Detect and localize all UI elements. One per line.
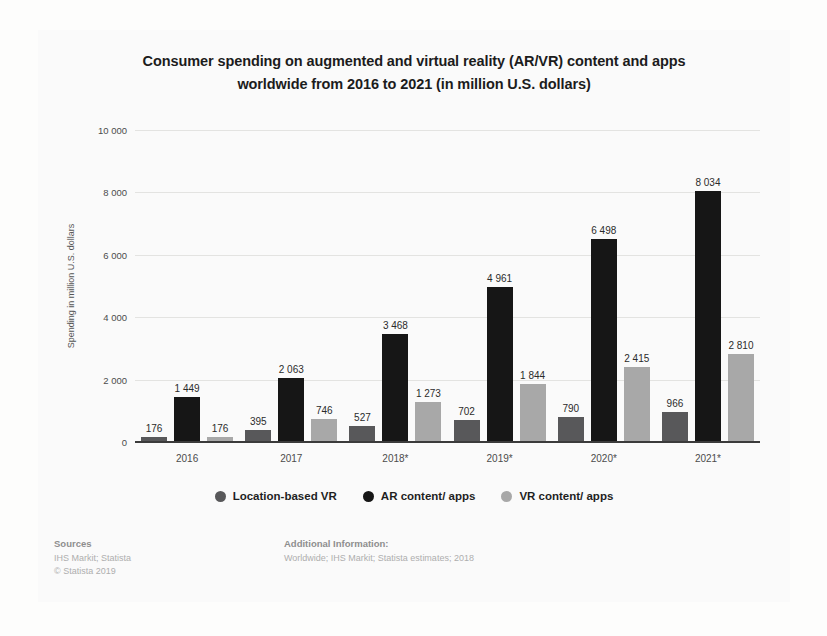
additional-information-heading: Additional Information: bbox=[284, 538, 724, 549]
bar-value-label: 4 961 bbox=[487, 273, 512, 284]
bar-group: 9668 0342 8102021* bbox=[656, 130, 760, 442]
legend-swatch-icon bbox=[215, 491, 226, 502]
y-axis-tick-label: 4 000 bbox=[103, 312, 127, 323]
bar[interactable] bbox=[174, 397, 200, 442]
bar-group: 7906 4982 4152020* bbox=[552, 130, 656, 442]
bar[interactable] bbox=[728, 354, 754, 442]
sources-block: Sources IHS Markit; Statista © Statista … bbox=[54, 538, 284, 577]
x-axis-tick-label: 2021* bbox=[656, 453, 760, 464]
x-axis-tick-label: 2019* bbox=[448, 453, 552, 464]
bar-column[interactable]: 1 273 bbox=[415, 130, 441, 442]
bar-column[interactable]: 2 810 bbox=[728, 130, 754, 442]
bar-column[interactable]: 746 bbox=[311, 130, 337, 442]
bar[interactable] bbox=[349, 426, 375, 442]
chart-figure: Consumer spending on augmented and virtu… bbox=[38, 30, 790, 602]
chart-title-line-2: worldwide from 2016 to 2021 (in million … bbox=[78, 73, 750, 96]
x-axis-tick-label: 2016 bbox=[135, 453, 239, 464]
x-axis-tick-label: 2017 bbox=[239, 453, 343, 464]
bar-value-label: 2 810 bbox=[728, 340, 753, 351]
bar-column[interactable]: 8 034 bbox=[695, 130, 721, 442]
bar-column[interactable]: 176 bbox=[207, 130, 233, 442]
bar-value-label: 527 bbox=[354, 412, 371, 423]
bar-group: 7024 9611 8442019* bbox=[448, 130, 552, 442]
bar-value-label: 1 449 bbox=[175, 383, 200, 394]
bar-column[interactable]: 1 449 bbox=[174, 130, 200, 442]
bar-value-label: 6 498 bbox=[591, 225, 616, 236]
legend-item[interactable]: VR content/ apps bbox=[501, 490, 613, 502]
bar-column[interactable]: 395 bbox=[245, 130, 271, 442]
legend-label: AR content/ apps bbox=[381, 490, 476, 502]
bar[interactable] bbox=[520, 384, 546, 442]
bar-value-label: 176 bbox=[212, 423, 229, 434]
chart-title-line-1: Consumer spending on augmented and virtu… bbox=[143, 53, 686, 69]
bar-value-label: 176 bbox=[146, 423, 163, 434]
bar-column[interactable]: 176 bbox=[141, 130, 167, 442]
bar-value-label: 1 273 bbox=[416, 388, 441, 399]
bar-value-label: 790 bbox=[562, 403, 579, 414]
bar[interactable] bbox=[487, 287, 513, 442]
x-axis-tick-label: 2018* bbox=[343, 453, 447, 464]
bar-value-label: 746 bbox=[316, 405, 333, 416]
bar-group: 3952 0637462017 bbox=[239, 130, 343, 442]
bar-value-label: 966 bbox=[667, 398, 684, 409]
y-axis-tick-label: 8 000 bbox=[103, 187, 127, 198]
legend-label: Location-based VR bbox=[233, 490, 337, 502]
bar-value-label: 395 bbox=[250, 416, 267, 427]
x-axis-tick-label: 2020* bbox=[552, 453, 656, 464]
y-axis-tick-label: 2 000 bbox=[103, 374, 127, 385]
legend-swatch-icon bbox=[363, 491, 374, 502]
bar[interactable] bbox=[624, 367, 650, 442]
bar-value-label: 3 468 bbox=[383, 320, 408, 331]
y-axis-tick-label: 0 bbox=[122, 437, 127, 448]
bar-column[interactable]: 2 063 bbox=[278, 130, 304, 442]
bar-column[interactable]: 527 bbox=[349, 130, 375, 442]
legend-item[interactable]: Location-based VR bbox=[215, 490, 337, 502]
bar-column[interactable]: 702 bbox=[454, 130, 480, 442]
y-axis-title-text: Spending in million U.S. dollars bbox=[66, 224, 76, 349]
legend-item[interactable]: AR content/ apps bbox=[363, 490, 476, 502]
bar-groups: 1761 44917620163952 06374620175273 4681 … bbox=[135, 130, 760, 442]
bar[interactable] bbox=[415, 402, 441, 442]
bar-column[interactable]: 790 bbox=[558, 130, 584, 442]
bar[interactable] bbox=[382, 334, 408, 442]
bar[interactable] bbox=[278, 378, 304, 442]
plot-area: 02 0004 0006 0008 00010 000 1761 4491762… bbox=[135, 130, 760, 442]
legend-label: VR content/ apps bbox=[519, 490, 613, 502]
sources-line-1: IHS Markit; Statista bbox=[54, 552, 284, 565]
bar-group: 1761 4491762016 bbox=[135, 130, 239, 442]
bar[interactable] bbox=[695, 191, 721, 442]
chart-legend: Location-based VRAR content/ appsVR cont… bbox=[38, 490, 790, 502]
bar[interactable] bbox=[311, 419, 337, 442]
bar-value-label: 2 415 bbox=[624, 353, 649, 364]
bar[interactable] bbox=[245, 430, 271, 442]
bar-group: 5273 4681 2732018* bbox=[343, 130, 447, 442]
bar[interactable] bbox=[662, 412, 688, 442]
y-axis-tick-label: 10 000 bbox=[98, 125, 127, 136]
bar-column[interactable]: 1 844 bbox=[520, 130, 546, 442]
sources-heading: Sources bbox=[54, 538, 284, 549]
bar-value-label: 702 bbox=[458, 406, 475, 417]
bar[interactable] bbox=[558, 417, 584, 442]
bar[interactable] bbox=[591, 239, 617, 442]
sources-line-2: © Statista 2019 bbox=[54, 565, 284, 578]
bar-value-label: 1 844 bbox=[520, 370, 545, 381]
bar-column[interactable]: 6 498 bbox=[591, 130, 617, 442]
bar-column[interactable]: 4 961 bbox=[487, 130, 513, 442]
additional-information-block: Additional Information: Worldwide; IHS M… bbox=[284, 538, 724, 577]
chart-footer: Sources IHS Markit; Statista © Statista … bbox=[54, 538, 774, 577]
y-axis-tick-label: 6 000 bbox=[103, 249, 127, 260]
chart-title: Consumer spending on augmented and virtu… bbox=[78, 50, 750, 96]
x-axis-line bbox=[135, 441, 760, 443]
bar[interactable] bbox=[454, 420, 480, 442]
bar-column[interactable]: 3 468 bbox=[382, 130, 408, 442]
legend-swatch-icon bbox=[501, 491, 512, 502]
bar-column[interactable]: 966 bbox=[662, 130, 688, 442]
bar-value-label: 8 034 bbox=[695, 177, 720, 188]
y-axis-title: Spending in million U.S. dollars bbox=[64, 130, 78, 442]
bar-column[interactable]: 2 415 bbox=[624, 130, 650, 442]
bar-value-label: 2 063 bbox=[279, 364, 304, 375]
additional-information-line-1: Worldwide; IHS Markit; Statista estimate… bbox=[284, 552, 724, 565]
